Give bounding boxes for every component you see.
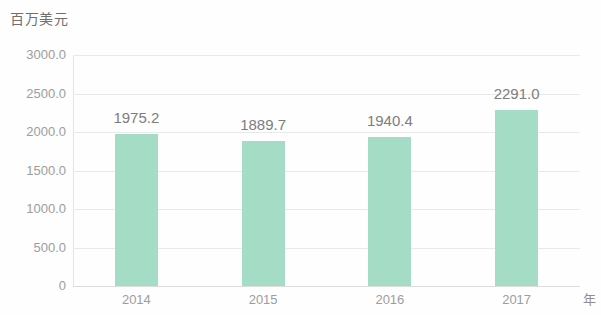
bar[interactable]: [495, 110, 538, 286]
y-axis-tick-label: 1000.0: [0, 202, 66, 216]
y-axis-tick-label: 3000.0: [0, 48, 66, 62]
x-axis-tick-label: 2014: [122, 292, 151, 307]
bar-value-label: 1889.7: [240, 117, 286, 133]
plot-area: 1975.21889.71940.42291.0: [73, 55, 580, 286]
y-axis-tick-label: 2500.0: [0, 87, 66, 101]
x-axis-tick-label: 2016: [375, 292, 404, 307]
bar-value-label: 1975.2: [113, 110, 159, 126]
bar[interactable]: [115, 134, 158, 286]
bar-item[interactable]: 2291.0: [495, 55, 538, 286]
y-axis-tick-label: 2000.0: [0, 125, 66, 139]
bar[interactable]: [242, 141, 285, 287]
y-axis-tick-label: 1500.0: [0, 164, 66, 178]
bar-item[interactable]: 1975.2: [115, 55, 158, 286]
bar-value-label: 2291.0: [494, 86, 540, 102]
x-axis-unit-label: 年: [583, 292, 596, 307]
x-axis-tick-label: 2017: [502, 292, 531, 307]
bar-item[interactable]: 1940.4: [368, 55, 411, 286]
bar-item[interactable]: 1889.7: [242, 55, 285, 286]
gridline: [73, 286, 580, 287]
bar-series: 1975.21889.71940.42291.0: [73, 55, 580, 286]
y-axis-tick-label: 500.0: [0, 241, 66, 255]
y-axis-tick-label: 0: [0, 279, 66, 293]
x-axis-tick-label: 2015: [249, 292, 278, 307]
bar-chart: 百万美元 0500.01000.01500.02000.02500.03000.…: [0, 0, 601, 315]
y-axis-unit-label: 百万美元: [10, 10, 68, 28]
bar[interactable]: [368, 137, 411, 286]
bar-value-label: 1940.4: [367, 113, 413, 129]
